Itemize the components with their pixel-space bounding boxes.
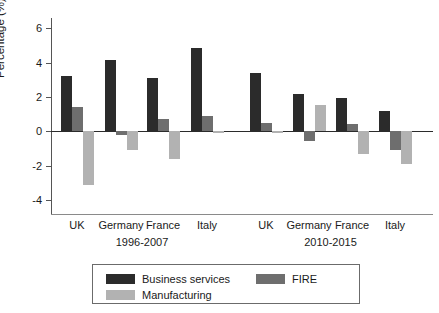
legend-entry-fire: FIRE xyxy=(256,273,317,285)
x-axis-category-label: France xyxy=(335,219,369,231)
bar-chart-figure: Percentage (%) 6420-2-4 UKGermanyFranceI… xyxy=(0,0,439,313)
bar xyxy=(347,124,358,132)
bar xyxy=(379,111,390,132)
bar xyxy=(250,73,261,131)
legend-swatch-fire xyxy=(256,274,285,284)
x-axis-category-label: Germany xyxy=(98,219,143,231)
x-axis-group-label: 2010-2015 xyxy=(304,236,357,248)
x-axis-category-label: UK xyxy=(258,219,273,231)
bar xyxy=(158,119,169,131)
legend-label-fire: FIRE xyxy=(292,273,317,285)
y-axis-tick-label: 2 xyxy=(0,91,42,103)
bar xyxy=(83,131,94,184)
legend-entry-manufacturing: Manufacturing xyxy=(106,289,212,301)
bar xyxy=(116,131,127,134)
bar xyxy=(390,131,401,150)
bar xyxy=(72,107,83,131)
legend-swatch-business-services xyxy=(106,274,135,284)
x-axis-category-label: UK xyxy=(69,219,84,231)
x-axis-category-label: Germany xyxy=(286,219,331,231)
x-axis-category-label: Italy xyxy=(197,219,217,231)
x-axis-category-label: France xyxy=(146,219,180,231)
bar xyxy=(147,78,158,131)
y-axis-tick-label: 0 xyxy=(0,125,42,137)
bar xyxy=(61,76,72,132)
legend-entry-business-services: Business services xyxy=(106,273,230,285)
x-axis-group-label: 1996-2007 xyxy=(116,236,169,248)
bar xyxy=(169,131,180,159)
bar xyxy=(315,105,326,132)
bar xyxy=(401,131,412,164)
bar xyxy=(191,48,202,131)
bar xyxy=(336,98,347,132)
legend-label-business-services: Business services xyxy=(142,273,230,285)
bar xyxy=(213,131,224,132)
bar xyxy=(358,131,369,153)
bar xyxy=(105,60,116,131)
y-axis-tick-label: -2 xyxy=(0,160,42,172)
chart-legend: Business services FIRE Manufacturing xyxy=(92,264,360,304)
x-axis-line xyxy=(51,214,433,215)
legend-label-manufacturing: Manufacturing xyxy=(142,289,212,301)
bar xyxy=(127,131,138,150)
legend-swatch-manufacturing xyxy=(106,290,135,300)
bar xyxy=(304,131,315,140)
plot-area xyxy=(51,18,433,214)
y-axis-tick-label: -4 xyxy=(0,194,42,206)
bar xyxy=(202,116,213,131)
y-axis-tick-label: 6 xyxy=(0,22,42,34)
x-axis-category-label: Italy xyxy=(385,219,405,231)
bar xyxy=(261,123,272,132)
bar xyxy=(272,131,283,132)
bar xyxy=(293,94,304,132)
y-axis-tick-label: 4 xyxy=(0,57,42,69)
